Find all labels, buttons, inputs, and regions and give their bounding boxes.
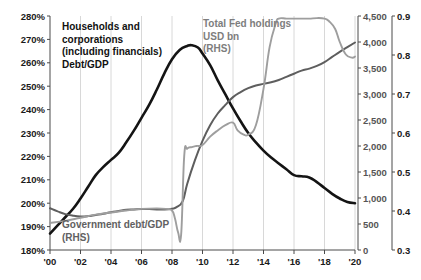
left-tick-label: 180% <box>21 245 46 256</box>
x-tick-label: '20 <box>349 256 362 267</box>
x-tick-label: '06 <box>135 256 148 267</box>
line-chart: 180%190%200%210%220%230%240%250%260%270%… <box>0 0 421 280</box>
x-tick-label: '16 <box>288 256 301 267</box>
x-tick-label: '18 <box>318 256 331 267</box>
ann-fed-line: USD bn <box>203 31 239 42</box>
right-inner-tick-label: 2,000 <box>363 141 387 152</box>
ann-fed-line: Total Fed holdings <box>203 18 292 29</box>
right-outer-tick-label: 0.3 <box>397 245 410 256</box>
right-outer-tick-label: 0.7 <box>397 89 410 100</box>
left-tick-label: 260% <box>21 57 46 68</box>
x-tick-label: '00 <box>44 256 57 267</box>
ann-households-line: (including financials) <box>62 46 162 57</box>
x-tick-label: '02 <box>74 256 87 267</box>
right-inner-tick-label: 4,500 <box>363 11 387 22</box>
right-outer-tick-label: 0.4 <box>397 206 411 217</box>
ann-households-line: Debt/GDP <box>62 59 109 70</box>
chart-container: 180%190%200%210%220%230%240%250%260%270%… <box>0 0 421 280</box>
right-inner-tick-label: 3,500 <box>363 63 387 74</box>
left-tick-label: 220% <box>21 151 46 162</box>
x-tick-label: '12 <box>227 256 240 267</box>
right-inner-tick-label: 3,000 <box>363 89 387 100</box>
x-tick-label: '04 <box>105 256 119 267</box>
ann-fed-line: (RHS) <box>203 43 231 54</box>
left-tick-label: 230% <box>21 128 46 139</box>
left-tick-label: 210% <box>21 174 46 185</box>
left-tick-label: 200% <box>21 198 46 209</box>
right-inner-tick-label: 2,500 <box>363 115 387 126</box>
left-tick-label: 270% <box>21 34 46 45</box>
left-tick-label: 280% <box>21 11 46 22</box>
left-tick-label: 250% <box>21 81 46 92</box>
right-outer-tick-label: 0.5 <box>397 167 411 178</box>
ann-government-line: Government debt/GDP <box>62 219 170 230</box>
right-outer-tick-label: 0.9 <box>397 11 410 22</box>
ann-government-line: (RHS) <box>62 232 90 243</box>
right-inner-tick-label: 1,000 <box>363 193 387 204</box>
x-tick-label: '08 <box>166 256 179 267</box>
x-tick-label: '10 <box>196 256 209 267</box>
right-inner-tick-label: 4,000 <box>363 37 387 48</box>
ann-households-line: corporations <box>62 34 124 45</box>
right-inner-tick-label: 0 <box>363 245 368 256</box>
right-inner-tick-label: 1,500 <box>363 167 387 178</box>
right-outer-tick-label: 0.6 <box>397 128 410 139</box>
right-outer-tick-label: 0.8 <box>397 50 410 61</box>
x-tick-label: '14 <box>257 256 271 267</box>
left-tick-label: 190% <box>21 221 46 232</box>
right-inner-tick-label: 500 <box>363 219 379 230</box>
ann-households-line: Households and <box>62 21 140 32</box>
left-tick-label: 240% <box>21 104 46 115</box>
